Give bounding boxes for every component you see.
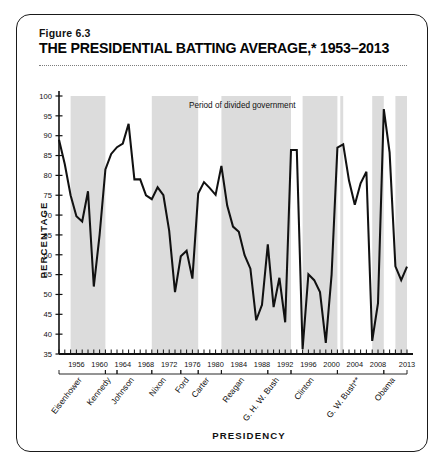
x-tick-label: 2004 — [347, 360, 363, 369]
president-label: Reagan — [220, 375, 246, 405]
president-bracket — [152, 370, 181, 374]
president-labels: EisenhowerKennedyJohnsonNixonFordCarterR… — [49, 374, 397, 423]
president-label: G. W. Bush** — [324, 374, 362, 419]
president-label: Carter — [189, 375, 211, 400]
y-tick-label: 45 — [44, 310, 52, 319]
shaded-band — [303, 96, 338, 354]
president-label: Johnson — [109, 375, 137, 406]
president-bracket — [198, 370, 221, 374]
president-bracket — [105, 370, 117, 374]
x-tick-label: 1980 — [207, 360, 223, 369]
x-tick-label: 1960 — [91, 360, 107, 369]
y-tick-label: 40 — [44, 330, 52, 339]
shaded-band — [152, 96, 198, 354]
x-tick-label: 1996 — [300, 360, 316, 369]
president-bracket — [221, 370, 267, 374]
y-axis-title: PERCENTAGE — [38, 202, 49, 279]
chart-area: 35404550556065707580859095100 1956196019… — [17, 15, 429, 453]
president-bracket — [59, 370, 105, 374]
x-tick-label: 1972 — [161, 360, 177, 369]
divided-government-bands — [71, 96, 407, 354]
line-chart: 35404550556065707580859095100 1956196019… — [17, 15, 429, 453]
legend-label: Period of divided government — [189, 101, 296, 110]
y-tick-label: 95 — [44, 112, 52, 121]
president-bracket — [384, 370, 407, 374]
x-tick-label: 2013 — [399, 360, 415, 369]
president-label: Eisenhower — [49, 375, 84, 416]
president-bracket — [291, 370, 337, 374]
y-tick-label: 85 — [44, 151, 52, 160]
president-bracket — [117, 370, 152, 374]
president-label: Clinton — [292, 375, 316, 402]
president-brackets — [59, 370, 407, 374]
president-label: Ford — [173, 375, 192, 395]
president-bracket — [268, 370, 291, 374]
x-tick-label: 1992 — [277, 360, 293, 369]
x-tick-label: 1968 — [138, 360, 154, 369]
x-tick-label: 1976 — [184, 360, 200, 369]
y-tick-label: 100 — [39, 92, 52, 101]
x-tick-label: 1964 — [115, 360, 131, 369]
y-tick-label: 80 — [44, 171, 52, 180]
x-tick-label: 2008 — [370, 360, 386, 369]
y-tick-label: 35 — [44, 350, 52, 359]
president-label: Nixon — [147, 375, 168, 398]
x-tick-label: 2000 — [323, 360, 339, 369]
shaded-band — [340, 96, 343, 354]
y-tick-label: 50 — [44, 290, 52, 299]
figure-frame: Figure 6.3 THE PRESIDENTIAL BATTING AVER… — [16, 14, 428, 452]
x-tick-label: 1956 — [68, 360, 84, 369]
president-bracket — [337, 370, 383, 374]
president-label: G. H. W. Bush — [240, 375, 281, 423]
y-tick-label: 90 — [44, 131, 52, 140]
x-axis-title: PRESIDENCY — [212, 430, 285, 441]
president-bracket — [181, 370, 198, 374]
president-label: Kennedy — [85, 374, 114, 407]
x-axis-year-labels: 1956196019641968197219761980198419881992… — [68, 360, 415, 369]
y-tick-label: 75 — [44, 191, 52, 200]
x-tick-label: 1988 — [254, 360, 270, 369]
legend-swatch — [175, 100, 184, 109]
x-tick-label: 1984 — [231, 360, 247, 369]
shaded-band — [395, 96, 407, 354]
chart-legend: Period of divided government — [175, 100, 296, 110]
president-label: Obama — [372, 375, 397, 403]
